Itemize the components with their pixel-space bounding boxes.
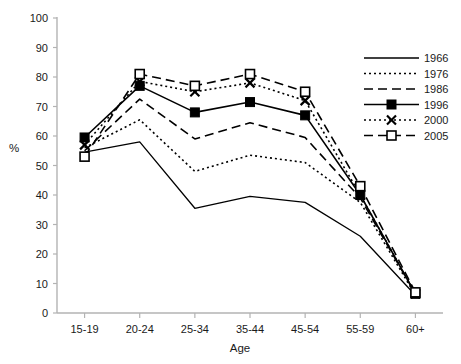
y-tick-label: 100 (30, 12, 48, 24)
legend-label-2005: 2005 (424, 130, 448, 142)
legend-label-1976: 1976 (424, 68, 448, 80)
marker-filled-square (190, 108, 199, 117)
marker-filled-square (387, 100, 396, 109)
x-tick-label: 60+ (406, 323, 425, 335)
y-axis-title: % (9, 142, 19, 154)
y-tick-label: 80 (36, 71, 48, 83)
y-tick-label: 20 (36, 248, 48, 260)
marker-filled-square (301, 111, 310, 120)
x-tick-label: 45-54 (291, 323, 319, 335)
marker-open-square (190, 81, 199, 90)
y-tick-label: 70 (36, 101, 48, 113)
marker-filled-square (246, 98, 255, 107)
legend-label-2000: 2000 (424, 114, 448, 126)
legend-label-1966: 1966 (424, 52, 448, 64)
marker-open-square (356, 182, 365, 191)
y-tick-label: 30 (36, 219, 48, 231)
y-tick-label: 60 (36, 130, 48, 142)
legend-label-1986: 1986 (424, 83, 448, 95)
x-tick-label: 25-34 (181, 323, 209, 335)
y-tick-label: 90 (36, 42, 48, 54)
marker-open-square (411, 288, 420, 297)
y-tick-label: 50 (36, 160, 48, 172)
legend-label-1996: 1996 (424, 99, 448, 111)
marker-open-square (135, 70, 144, 79)
marker-open-square (387, 131, 396, 140)
x-axis-title: Age (230, 342, 250, 354)
y-tick-label: 0 (42, 307, 48, 319)
chart-legend: 196619761986199620002005 (362, 47, 458, 146)
x-tick-label: 55-59 (346, 323, 374, 335)
y-tick-label: 10 (36, 278, 48, 290)
chart-container: 0102030405060708090100 15-1920-2425-3435… (0, 0, 461, 364)
x-tick-label: 15-19 (71, 323, 99, 335)
line-chart: 0102030405060708090100 15-1920-2425-3435… (0, 0, 461, 364)
marker-open-square (301, 87, 310, 96)
y-tick-label: 40 (36, 189, 48, 201)
marker-open-square (246, 70, 255, 79)
marker-open-square (80, 152, 89, 161)
x-tick-label: 35-44 (236, 323, 264, 335)
x-tick-label: 20-24 (126, 323, 154, 335)
